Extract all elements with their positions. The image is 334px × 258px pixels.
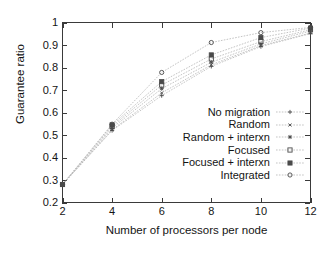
legend-item-3: Focused — [150, 144, 305, 157]
legend-key-0 — [275, 107, 305, 117]
data-point-open-circle — [160, 70, 164, 74]
legend-item-4: Focused + interxn — [150, 156, 305, 169]
legend-label: Focused — [228, 145, 275, 156]
data-point-filled-square — [209, 53, 213, 57]
x-axis-label: Number of processors per node — [62, 224, 311, 236]
chart-legend: No migrationRandomRandom + interxnFocuse… — [150, 106, 305, 182]
legend-key-5 — [275, 170, 305, 180]
legend-label: No migration — [208, 107, 275, 118]
data-point-filled-square — [288, 161, 292, 165]
legend-key-1 — [275, 120, 305, 130]
data-point-plus — [288, 110, 292, 114]
legend-label: Random + interxn — [183, 132, 275, 143]
legend-key-4 — [275, 158, 305, 168]
legend-label: Integrated — [220, 170, 275, 181]
legend-key-2 — [275, 132, 305, 142]
legend-item-2: Random + interxn — [150, 131, 305, 144]
data-point-star — [288, 135, 292, 139]
legend-label: Focused + interxn — [182, 157, 275, 168]
chart-figure: 10.90.80.70.60.50.40.30.2 24681012 Guara… — [0, 0, 334, 258]
legend-item-1: Random — [150, 119, 305, 132]
data-point-filled-square — [259, 35, 263, 39]
legend-item-0: No migration — [150, 106, 305, 119]
data-point-filled-square — [160, 80, 164, 84]
legend-key-3 — [275, 145, 305, 155]
y-axis-label: Guarantee ratio — [14, 9, 26, 159]
legend-label: Random — [228, 119, 275, 130]
legend-item-5: Integrated — [150, 169, 305, 182]
